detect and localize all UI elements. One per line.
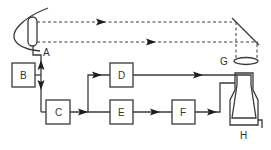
label-b: B — [20, 70, 27, 81]
lamp-stem — [33, 46, 41, 63]
label-h: H — [240, 130, 247, 141]
label-f: F — [180, 107, 186, 118]
f-to-h-line — [195, 83, 235, 112]
label-g: G — [220, 56, 228, 67]
split-to-d — [88, 75, 110, 112]
label-c: C — [55, 107, 62, 118]
label-a: A — [43, 47, 50, 58]
reflector-curve — [14, 8, 48, 51]
lens-g — [234, 58, 258, 65]
optical-block-diagram: G A B C D E F H — [0, 0, 271, 150]
lamp-capsule — [28, 17, 37, 46]
label-e: E — [118, 107, 125, 118]
apparatus-h — [230, 73, 262, 128]
label-d: D — [118, 70, 125, 81]
